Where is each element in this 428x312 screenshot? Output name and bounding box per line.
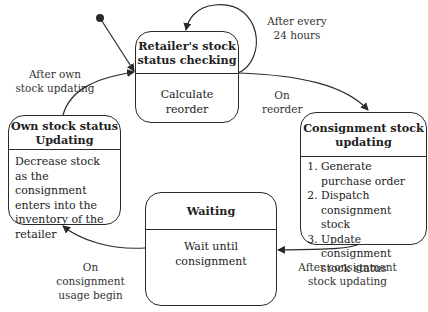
label-after-consignment: After consignment stock updating bbox=[285, 260, 410, 288]
label-on-reorder: On reorder bbox=[262, 88, 302, 116]
label-after-own: After own stock updating bbox=[15, 67, 95, 95]
state-title: Retailer's stock status checking bbox=[136, 32, 238, 74]
state-own-stock-updating: Own stock status Updating Decrease stock… bbox=[8, 115, 121, 225]
activity-item: Generate purchase order bbox=[321, 160, 422, 189]
state-title: Waiting bbox=[146, 193, 276, 230]
state-waiting: Waiting Wait until consignment bbox=[145, 192, 277, 306]
state-activity: Wait until consignment bbox=[146, 230, 276, 273]
state-retailer-stock-checking: Retailer's stock status checking Calcula… bbox=[135, 31, 239, 123]
state-title: Consignment stock updating bbox=[301, 113, 426, 157]
label-on-usage: On consignment usage begin bbox=[48, 260, 133, 302]
state-consignment-stock-updating: Consignment stock updating Generate purc… bbox=[300, 112, 427, 245]
state-activity: Decrease stock as the consignment enters… bbox=[9, 150, 120, 247]
state-activity: Calculate reorder bbox=[136, 74, 238, 121]
label-self-loop: After every 24 hours bbox=[262, 14, 332, 42]
activity-item: Dispatch consignment stock bbox=[321, 189, 422, 233]
state-title: Own stock status Updating bbox=[9, 116, 120, 150]
activity-list: Generate purchase order Dispatch consign… bbox=[305, 160, 422, 276]
